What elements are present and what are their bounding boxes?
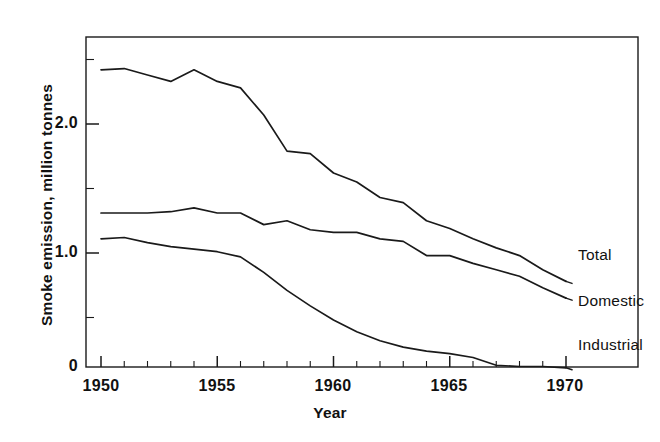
chart-figure: Smoke emission, million tonnes Year 0 1.…: [0, 0, 660, 442]
chart-plot-area: [0, 0, 660, 442]
plot-frame: [86, 37, 638, 367]
data-series-lines: [101, 69, 572, 370]
